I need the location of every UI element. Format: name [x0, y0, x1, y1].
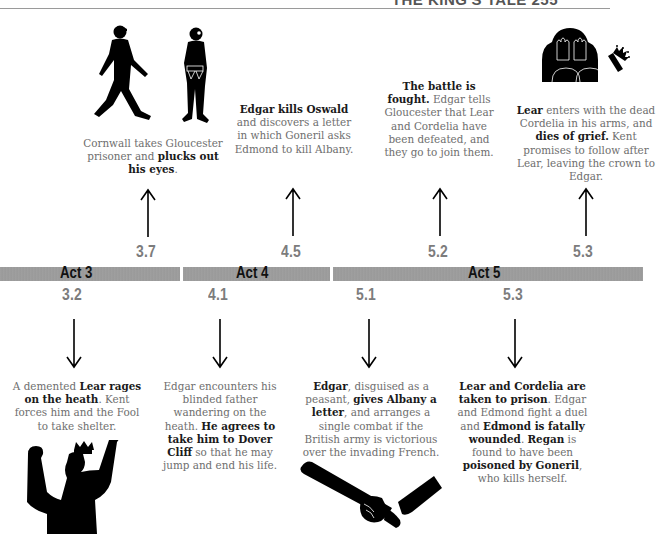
- act-3-label: Act 3: [60, 263, 92, 283]
- hand-holding-letter-scroll-icon: [298, 458, 448, 536]
- raging-king-lear-icon: [24, 440, 144, 536]
- event-5-1-description: Edgar, disguised as a peasant, gives Alb…: [300, 380, 442, 459]
- up-arrow-icon: [283, 187, 303, 237]
- act-4-label: Act 4: [236, 263, 268, 283]
- scene-number-5-1: 5.1: [356, 285, 376, 305]
- event-3-2-description: A demented Lear rages on the heath. Kent…: [12, 380, 142, 433]
- event-5-3-top-description: Lear enters with the dead Cordelia in hi…: [512, 104, 660, 183]
- act-5-bar: Act 5: [333, 267, 643, 281]
- event-5-3-bottom-description: Lear and Cordelia are taken to prison. E…: [455, 380, 590, 486]
- down-arrow-icon: [359, 318, 379, 370]
- up-arrow-icon: [576, 187, 596, 237]
- scene-number-4-1: 4.1: [208, 285, 228, 305]
- scene-number-5-2: 5.2: [428, 242, 448, 262]
- page-header-title: THE KING'S TALE 255: [392, 0, 558, 8]
- act-4-bar: Act 4: [183, 267, 330, 281]
- up-arrow-icon: [430, 187, 450, 237]
- event-4-5-description: Edgar kills Oswald and discovers a lette…: [234, 103, 354, 156]
- up-arrow-icon: [138, 188, 158, 238]
- grieving-figure-with-crown-icon: [534, 26, 644, 84]
- scene-number-3-7: 3.7: [136, 242, 156, 262]
- down-arrow-icon: [64, 318, 84, 370]
- gloucester-prisoner-figures-icon: [84, 24, 224, 130]
- scene-number-5-3-top: 5.3: [573, 242, 593, 262]
- down-arrow-icon: [210, 318, 230, 370]
- act-3-bar: Act 3: [0, 267, 180, 281]
- page-header: THE KING'S TALE 255: [0, 0, 610, 9]
- scene-number-4-5: 4.5: [281, 242, 301, 262]
- down-arrow-icon: [505, 318, 525, 370]
- act-5-label: Act 5: [468, 263, 500, 283]
- scene-number-3-2: 3.2: [62, 285, 82, 305]
- event-3-7-description: Cornwall takes Gloucester prisoner and p…: [78, 137, 228, 177]
- event-4-1-description: Edgar encounters his blinded father wand…: [160, 380, 280, 472]
- scene-number-5-3-bottom: 5.3: [503, 285, 523, 305]
- event-5-2-description: The battle is fought. Edgar tells Glouce…: [380, 80, 498, 159]
